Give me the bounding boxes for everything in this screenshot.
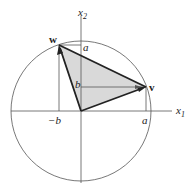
v-label: v [149, 81, 155, 93]
x1-axis-label: x1 [175, 104, 185, 119]
x2-axis-label: x2 [77, 6, 87, 21]
w-label: w [49, 33, 57, 45]
a-right-label: a [142, 114, 148, 126]
a-top-label: a [83, 41, 89, 53]
b-mid-label: b [75, 78, 81, 90]
shaded-triangle [59, 45, 146, 111]
rotation-diagram: x2 x1 w v a b −b a [0, 0, 194, 189]
neg-b-label: −b [48, 114, 61, 126]
